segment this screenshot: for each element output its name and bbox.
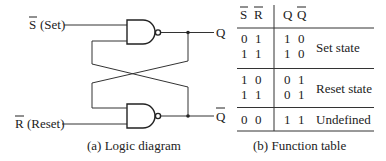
inversion-bubble-icon	[155, 30, 160, 35]
set-text: (Set)	[40, 17, 65, 32]
cell-q: 0	[284, 72, 291, 87]
reset-symbol: R	[15, 116, 24, 131]
header-q: Q	[283, 7, 293, 22]
cell-r: 1	[255, 87, 262, 102]
sr-latch-figure: S (Set) R (Reset) Q	[0, 0, 386, 161]
cell-r: 0	[255, 112, 262, 127]
reset-input-label: R (Reset)	[15, 116, 65, 131]
state-label: Undefined	[316, 112, 371, 127]
table-row: 1 0 0 1	[241, 72, 305, 87]
cell-s: 0	[241, 31, 248, 46]
table-group-set: 0 1 1 0 1 1 1 0 Set state	[241, 31, 360, 61]
state-label: Reset state	[316, 81, 372, 96]
set-symbol: S	[29, 17, 36, 32]
qbar-output-label: Q	[216, 108, 226, 124]
function-table-caption: (b) Function table	[253, 138, 346, 153]
cell-r: 1	[255, 31, 262, 46]
cell-q: 0	[284, 87, 291, 102]
cell-r: 1	[255, 46, 262, 61]
logic-diagram-caption: (a) Logic diagram	[87, 138, 181, 153]
cell-qbar: 1	[298, 87, 305, 102]
cell-q: 1	[284, 112, 291, 127]
qbar-symbol: Q	[216, 109, 226, 124]
cell-qbar: 0	[298, 31, 305, 46]
cell-s: 0	[241, 112, 248, 127]
cell-qbar: 1	[298, 72, 305, 87]
cell-r: 0	[255, 72, 262, 87]
table-row: 1 1 0 1	[241, 87, 305, 102]
nand-body-icon	[127, 104, 155, 128]
header-qbar: Q	[297, 7, 307, 22]
cell-qbar: 0	[298, 46, 305, 61]
state-label: Set state	[316, 40, 360, 55]
cell-qbar: 1	[298, 112, 305, 127]
reset-text: (Reset)	[27, 116, 65, 131]
cell-s: 1	[241, 87, 248, 102]
inversion-bubble-icon	[155, 113, 160, 118]
table-group-undefined: 0 0 1 1 Undefined	[241, 112, 371, 127]
function-table: S R Q Q 0 1 1 0 1 1 1 0	[237, 5, 374, 153]
logic-diagram: S (Set) R (Reset) Q	[15, 17, 226, 153]
table-row: 1 1 1 0	[241, 46, 305, 61]
table-row: 0 1 1 0	[241, 31, 305, 46]
set-input-label: S (Set)	[29, 17, 65, 32]
header-s: S	[240, 7, 247, 22]
top-nand-gate	[127, 20, 161, 44]
table-row: 0 0 1 1	[241, 112, 305, 127]
nand-body-icon	[127, 20, 155, 44]
header-r: R	[254, 7, 263, 22]
bottom-nand-gate	[127, 104, 161, 128]
q-output-label: Q	[216, 25, 226, 40]
cell-s: 1	[241, 46, 248, 61]
cell-q: 1	[284, 31, 291, 46]
cell-q: 1	[284, 46, 291, 61]
cell-s: 1	[241, 72, 248, 87]
table-group-reset: 1 0 0 1 1 1 0 1 Reset state	[241, 72, 372, 102]
